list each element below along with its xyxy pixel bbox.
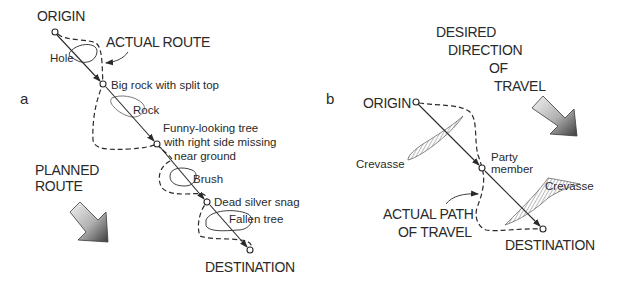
dead-snag-waypoint xyxy=(204,199,210,205)
panel-letter-b: b xyxy=(326,90,334,107)
party-member-label-line1: Party xyxy=(491,151,518,163)
actual-route-label: ACTUAL ROUTE xyxy=(106,34,210,50)
destination-waypoint xyxy=(247,247,253,253)
origin-waypoint xyxy=(413,99,419,105)
crevasse-label-1: Crevasse xyxy=(356,158,405,170)
obstacle-label-brush: Brush xyxy=(193,173,223,185)
landmark-label-tree-line1: Funny-looking tree xyxy=(163,122,258,134)
big-rock-waypoint xyxy=(100,81,106,87)
desired-direction-arrow-icon xyxy=(532,96,577,136)
landmark-label-dead-snag: Dead silver snag xyxy=(214,196,300,208)
tree-waypoint xyxy=(154,141,160,147)
desired-direction-line2: DIRECTION xyxy=(448,42,522,58)
destination-label: DESTINATION xyxy=(505,237,595,253)
obstacle-label-hole: Hole xyxy=(50,52,74,64)
destination-waypoint xyxy=(540,226,546,232)
crevasse-1 xyxy=(408,116,463,160)
desired-direction-line1: DESIRED xyxy=(436,24,496,40)
landmark-label-tree-line2: with right side missing xyxy=(163,136,276,148)
planned-route-label-line1: PLANNED xyxy=(35,162,99,178)
desired-direction-line4: TRAVEL xyxy=(494,78,546,94)
desired-direction-line3: OF xyxy=(489,60,508,76)
panel-letter-a: a xyxy=(20,90,29,107)
obstacle-label-fallen-tree: Fallen tree xyxy=(229,213,283,225)
destination-label: DESTINATION xyxy=(205,259,295,275)
panel-a: a ORIGIN ACTUAL ROUTE DESTINATION PLANNE… xyxy=(20,8,300,275)
origin-label: ORIGIN xyxy=(37,8,85,24)
obstacle-label-rock: Rock xyxy=(133,104,159,116)
actual-path-label-line2: OF TRAVEL xyxy=(398,224,472,240)
origin-label: ORIGIN xyxy=(363,95,411,111)
actual-path-pointer xyxy=(446,194,478,204)
landmark-label-big-rock: Big rock with split top xyxy=(111,79,219,91)
party-member-waypoint xyxy=(479,165,485,171)
actual-path-label-line1: ACTUAL PATH xyxy=(383,206,474,222)
planned-direction-arrow-icon xyxy=(70,202,108,242)
panel-b: b DESIRED DIRECTION OF TRAVEL ORIGIN DES… xyxy=(326,24,595,253)
planned-route-label-line2: ROUTE xyxy=(35,178,83,194)
actual-route-pointer xyxy=(106,52,128,63)
route-finding-diagram: a ORIGIN ACTUAL ROUTE DESTINATION PLANNE… xyxy=(0,0,626,282)
origin-waypoint xyxy=(52,29,58,35)
party-member-label-line2: member xyxy=(491,163,533,175)
landmark-label-tree-line3: near ground xyxy=(174,150,236,162)
